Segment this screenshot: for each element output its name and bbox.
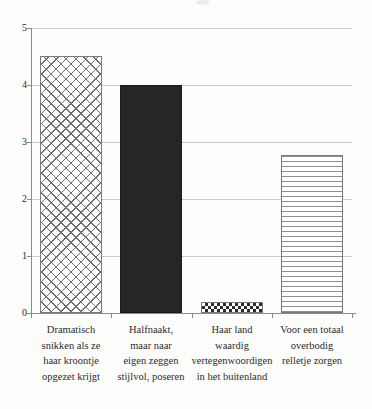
x-axis-label-1-line-2: snikken als ze [25,338,117,354]
x-axis-label-3: Haar landwaardigvertegenwoordigenin het … [186,322,278,384]
x-axis-label-2: Halfnaakt,maar naareigen zeggenstijlvol,… [105,322,197,384]
x-axis-label-2-line-2: maar naar [105,338,197,354]
y-tick-label-0: 0 [5,308,27,318]
y-tick-label-3: 3 [5,137,27,147]
x-axis-label-1: Dramatischsnikken als zehaar kroontjeopg… [25,322,117,384]
bar-3[interactable] [201,302,263,313]
x-axis-label-1-line-3: haar kroontje [25,353,117,369]
x-axis-label-4-line-2: overbodig [266,338,358,354]
x-axis-label-4: Voor een totaaloverbodigrelletje zorgen [266,322,358,369]
x-axis-label-2-line-4: stijlvol, poseren [105,369,197,385]
x-axis-label-4-line-1: Voor een totaal [266,322,358,338]
x-axis-label-3-line-3: vertegenwoordigen [186,353,278,369]
x-tick-mark-0 [31,313,32,318]
x-axis-label-3-line-2: waardig [186,338,278,354]
y-tick-label-5: 5 [5,23,27,33]
bar-4[interactable] [281,155,343,313]
x-axis-line [31,313,356,314]
bar-chart: 543210 Dramatischsnikken als zehaar kroo… [0,0,372,409]
x-axis-label-3-line-1: Haar land [186,322,278,338]
x-tick-mark-2 [192,313,193,318]
x-tick-mark-3 [272,313,273,318]
plot-area [31,28,352,313]
x-axis-label-2-line-3: eigen zeggen [105,353,197,369]
bar-2[interactable] [120,85,182,313]
x-axis-label-1-line-1: Dramatisch [25,322,117,338]
x-axis-label-4-line-3: relletje zorgen [266,353,358,369]
y-tick-label-4: 4 [5,80,27,90]
x-axis-label-2-line-1: Halfnaakt, [105,322,197,338]
x-axis-label-3-line-4: in het buitenland [186,369,278,385]
y-tick-label-1: 1 [5,251,27,261]
x-axis-labels: Dramatischsnikken als zehaar kroontjeopg… [31,322,356,402]
x-tick-mark-4 [352,313,353,318]
scan-artifact [196,0,210,5]
y-tick-label-2: 2 [5,194,27,204]
y-axis-ticks: 543210 [0,0,27,409]
x-axis-label-1-line-4: opgezet krijgt [25,369,117,385]
bar-1[interactable] [40,56,102,313]
x-tick-mark-1 [111,313,112,318]
